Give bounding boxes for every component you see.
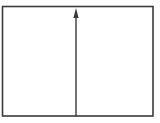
frame-rectangle bbox=[3, 7, 154, 117]
arrow-up-icon bbox=[73, 8, 78, 18]
diagram-canvas bbox=[0, 0, 160, 123]
